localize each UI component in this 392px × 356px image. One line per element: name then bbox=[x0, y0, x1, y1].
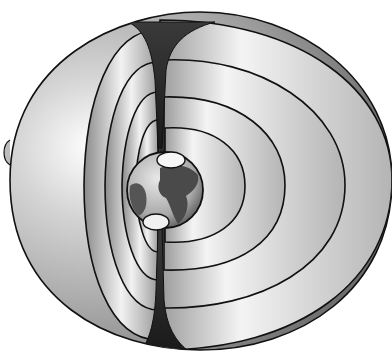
magnetosphere-illustration bbox=[0, 0, 392, 356]
north-polar-cap bbox=[157, 152, 185, 168]
south-polar-cap bbox=[143, 214, 169, 230]
magnetosphere-graphic bbox=[0, 0, 392, 356]
earth-globe bbox=[127, 152, 203, 230]
